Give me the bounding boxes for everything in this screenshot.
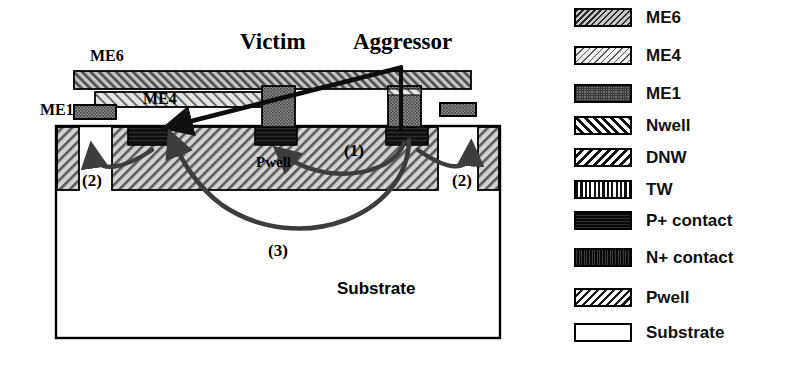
- legend-label-me4: ME4: [646, 47, 681, 64]
- legend-swatch-dnw: [574, 148, 632, 167]
- legend-swatch-p-contact: [574, 211, 632, 230]
- label-me4: ME4: [143, 91, 177, 107]
- legend-swatch-n-contact: [574, 248, 632, 267]
- pwell-right-strip: [478, 127, 499, 190]
- label-aggressor: Aggressor: [353, 30, 452, 53]
- label-substrate: Substrate: [337, 280, 415, 297]
- legend-panel: ME6 ME4 ME1 Nwell DNW TW P+ contact: [560, 0, 806, 367]
- pwell-left-strip: [57, 127, 79, 190]
- label-path-1: (1): [344, 142, 364, 159]
- label-path-3: (3): [268, 242, 288, 259]
- legend-item-tw: TW: [574, 178, 672, 200]
- label-path-2-right: (2): [452, 172, 472, 189]
- legend-item-pwell: Pwell: [574, 286, 689, 308]
- p-contact-victim: [255, 127, 297, 145]
- label-pwell: Pwell: [256, 155, 291, 170]
- legend-item-me4: ME4: [574, 44, 681, 66]
- legend-item-nwell: Nwell: [574, 114, 690, 136]
- legend-label-tw: TW: [646, 181, 672, 198]
- label-me1: ME1: [40, 102, 74, 118]
- legend-swatch-substrate: [574, 323, 632, 342]
- label-path-2-left: (2): [82, 172, 102, 189]
- p-contact-left: [128, 127, 170, 145]
- legend-swatch-me6: [574, 8, 632, 27]
- legend-item-n-contact: N+ contact: [574, 246, 733, 268]
- label-victim: Victim: [240, 30, 306, 53]
- victim-via-pillar: [262, 86, 295, 128]
- legend-item-me1: ME1: [574, 82, 681, 104]
- cross-section-diagram: Victim Aggressor ME6 ME4 ME1 Pwell Subst…: [0, 0, 560, 367]
- me1-block-right: [440, 103, 476, 116]
- legend-swatch-tw: [574, 180, 632, 199]
- legend-label-substrate: Substrate: [646, 324, 724, 341]
- legend-swatch-pwell: [574, 288, 632, 307]
- legend-item-me6: ME6: [574, 6, 681, 28]
- legend-item-p-contact: P+ contact: [574, 209, 732, 231]
- label-me6: ME6: [90, 48, 124, 64]
- me4-bar-right: [388, 89, 421, 95]
- legend-label-dnw: DNW: [646, 149, 687, 166]
- legend-swatch-nwell: [574, 116, 632, 135]
- legend-label-p-contact: P+ contact: [646, 212, 732, 229]
- legend-item-dnw: DNW: [574, 146, 687, 168]
- legend-label-me6: ME6: [646, 9, 681, 26]
- legend-label-me1: ME1: [646, 85, 681, 102]
- legend-label-pwell: Pwell: [646, 289, 689, 306]
- legend-item-substrate: Substrate: [574, 321, 724, 343]
- legend-label-nwell: Nwell: [646, 117, 690, 134]
- legend-label-n-contact: N+ contact: [646, 249, 733, 266]
- legend-swatch-me1: [574, 84, 632, 103]
- legend-swatch-me4: [574, 46, 632, 65]
- diagram-page: Victim Aggressor ME6 ME4 ME1 Pwell Subst…: [0, 0, 806, 367]
- me1-block-left: [74, 105, 116, 119]
